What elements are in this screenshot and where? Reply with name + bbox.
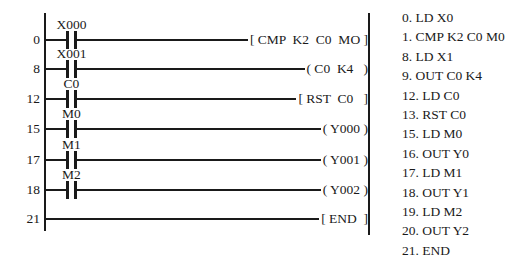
- output-coil: ( Y002 ): [321, 181, 368, 198]
- rung-step-number: 17: [0, 152, 40, 168]
- contact-bar: [74, 120, 77, 138]
- instruction-line: 17. LD M1: [402, 163, 530, 182]
- instruction-line: 13. RST C0: [402, 105, 530, 124]
- instruction-line: 0. LD X0: [402, 8, 530, 27]
- output-instruction: [ RST C0 ]: [296, 90, 368, 107]
- output-coil: ( Y001 ): [321, 151, 368, 168]
- instruction-line: 19. LD M2: [402, 202, 530, 221]
- instruction-line: 18. OUT Y1: [402, 183, 530, 202]
- instruction-line: 15. LD M0: [402, 124, 530, 143]
- contact-label: M0: [42, 106, 101, 121]
- instruction-line: 8. LD X1: [402, 47, 530, 66]
- output-instruction: [ CMP K2 C0 MO ]: [248, 31, 368, 48]
- output-coil: ( Y000 ): [321, 120, 368, 137]
- instruction-line: 16. OUT Y0: [402, 144, 530, 163]
- output-instruction: [ END ]: [319, 210, 368, 227]
- contact-bar: [66, 120, 69, 138]
- instruction-line: 20. OUT Y2: [402, 221, 530, 240]
- contact-label: M1: [42, 137, 101, 152]
- rung-step-number: 8: [0, 61, 40, 77]
- rung-step-number: 18: [0, 182, 40, 198]
- normally-open-contact-symbol: [66, 181, 77, 199]
- output-coil: ( C0 K4 ): [305, 60, 369, 77]
- contact-bar: [66, 181, 69, 199]
- rung-step-number: 15: [0, 121, 40, 137]
- normally-open-contact-symbol: [66, 120, 77, 138]
- rung-step-number: 0: [0, 32, 40, 48]
- instruction-line: 12. LD C0: [402, 86, 530, 105]
- contact-bar: [74, 181, 77, 199]
- rung-step-number: 21: [0, 211, 40, 227]
- contact-label: X000: [42, 17, 101, 32]
- instruction-list: 0. LD X0 1. CMP K2 C0 M0 8. LD X1 9. OUT…: [402, 8, 530, 260]
- rung-step-number: 12: [0, 91, 40, 107]
- right-power-rail: [368, 13, 370, 235]
- plc-ladder-figure: 0 X000 [ CMP K2 C0 MO ] 8 X001 ( C0 K4 ): [0, 0, 531, 268]
- instruction-line: 9. OUT C0 K4: [402, 66, 530, 85]
- contact-label: X001: [42, 46, 101, 61]
- contact-label: C0: [42, 76, 101, 91]
- instruction-line: 21. END: [402, 241, 530, 260]
- contact-label: M2: [42, 167, 101, 182]
- instruction-line: 1. CMP K2 C0 M0: [402, 27, 530, 46]
